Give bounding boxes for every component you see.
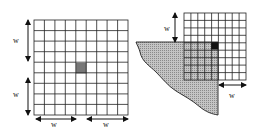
left-grid [34, 20, 128, 115]
label-w-bottom: w [229, 91, 235, 100]
label-w-upper: w [13, 36, 19, 45]
shaded-region [136, 42, 218, 115]
label-w-bottom-left: w [51, 120, 57, 129]
figure: w w w w w w [0, 0, 261, 140]
label-w-lower: w [13, 90, 19, 99]
label-w-top: w [164, 24, 170, 33]
label-w-bottom-right: w [103, 120, 109, 129]
highlight-cell [76, 63, 87, 74]
